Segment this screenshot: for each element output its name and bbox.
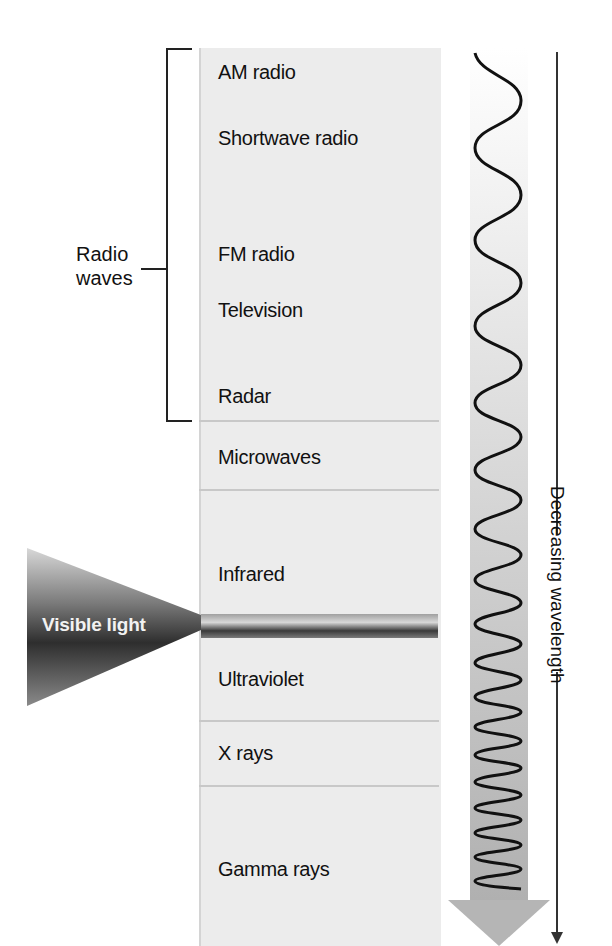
wavelength-arrow-icon: [448, 48, 550, 946]
visible-light-band: [201, 614, 438, 638]
axis-line-bottom: [556, 672, 558, 936]
decreasing-wavelength-label: Decreasing wavelength: [546, 486, 568, 684]
axis-line-top: [556, 52, 558, 534]
spectrum-graphics: [0, 0, 612, 946]
visible-light-label: Visible light: [42, 614, 146, 636]
